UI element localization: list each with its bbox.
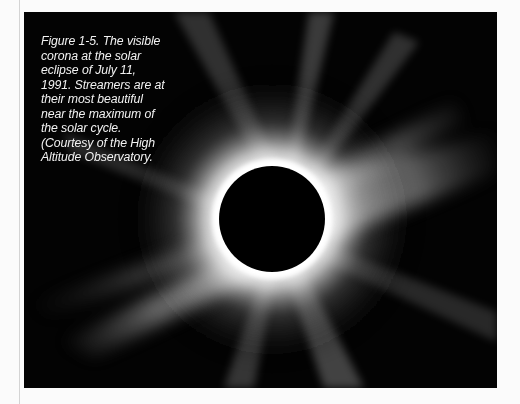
caption-line: (Courtesy of the High: [41, 136, 171, 151]
caption-line: corona at the solar: [41, 49, 171, 64]
caption-line: the solar cycle.: [41, 121, 171, 136]
caption-line: near the maximum of: [41, 107, 171, 122]
caption-line: Altitude Observatory.: [41, 150, 171, 165]
figure-caption: Figure 1-5. The visible corona at the so…: [41, 34, 171, 165]
caption-line: eclipse of July 11,: [41, 63, 171, 78]
caption-line: their most beautiful: [41, 92, 171, 107]
moon-disk: [219, 166, 325, 272]
caption-line: 1991. Streamers are at: [41, 78, 171, 93]
caption-line: Figure 1-5. The visible: [41, 34, 171, 49]
corona-photograph: Figure 1-5. The visible corona at the so…: [24, 12, 497, 388]
page-margin-rule: [19, 0, 20, 404]
